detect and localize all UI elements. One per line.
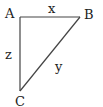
triangle-diagram: A B C x y z [0, 0, 103, 107]
vertex-a-label: A [4, 6, 15, 21]
side-x-label: x [48, 1, 56, 16]
vertex-c-label: C [15, 94, 25, 107]
side-y-label: y [54, 59, 63, 74]
side-y-line [20, 17, 80, 91]
vertex-b-label: B [84, 7, 94, 22]
side-z-label: z [5, 47, 12, 62]
